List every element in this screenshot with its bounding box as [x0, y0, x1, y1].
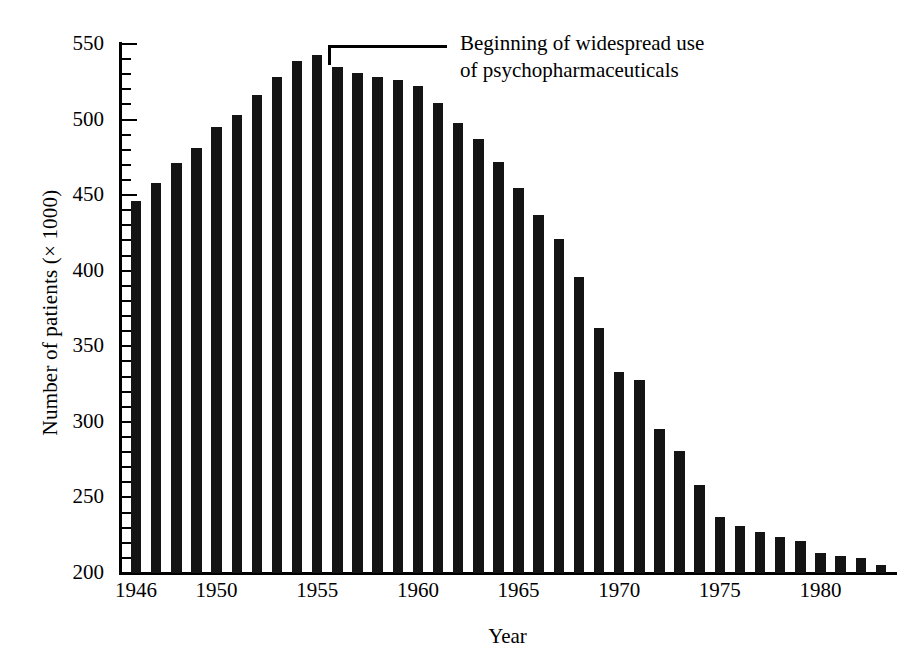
bar	[131, 201, 141, 573]
x-tick-label: 1970	[589, 580, 649, 601]
bar	[493, 162, 503, 573]
annotation-bracket-vertical	[328, 45, 331, 65]
y-tick-minor	[122, 239, 131, 241]
y-axis-line	[119, 42, 122, 575]
bar	[372, 77, 382, 573]
bar	[513, 188, 523, 573]
y-tick-minor	[122, 73, 131, 75]
bar-chart-figure: Number of patients (× 1000) 200250300350…	[0, 0, 909, 666]
bar	[292, 61, 302, 573]
bar	[755, 532, 765, 573]
annotation-label: Beginning of widespread use of psychopha…	[460, 30, 704, 84]
y-tick-minor	[122, 134, 131, 136]
bar	[312, 55, 322, 573]
bar	[151, 183, 161, 573]
y-tick-minor	[122, 527, 131, 529]
y-tick-minor	[122, 376, 131, 378]
y-tick-label: 300	[42, 411, 104, 432]
bar	[171, 163, 181, 573]
x-tick-label: 1980	[791, 580, 851, 601]
y-tick-minor	[122, 542, 131, 544]
bar	[715, 517, 725, 573]
bar	[815, 553, 825, 573]
y-tick-label: 500	[42, 109, 104, 130]
y-tick-minor	[122, 451, 131, 453]
bar	[211, 127, 221, 573]
bar	[272, 77, 282, 573]
y-tick-label: 200	[42, 562, 104, 583]
y-tick-minor	[122, 209, 131, 211]
bar	[393, 80, 403, 573]
y-tick-label: 450	[42, 184, 104, 205]
bar	[654, 429, 664, 573]
bar	[453, 123, 463, 573]
y-tick-minor	[122, 58, 131, 60]
y-tick-minor	[122, 224, 131, 226]
y-tick-minor	[122, 330, 131, 332]
y-tick-minor	[122, 103, 131, 105]
y-tick-minor	[122, 360, 131, 362]
bar	[614, 372, 624, 573]
bar	[634, 380, 644, 573]
y-tick-major	[122, 43, 137, 45]
bar	[735, 526, 745, 573]
y-tick-minor	[122, 512, 131, 514]
x-tick-label: 1946	[106, 580, 166, 601]
bar	[533, 215, 543, 573]
bar	[574, 277, 584, 573]
bar	[191, 148, 201, 573]
y-tick-label: 400	[42, 260, 104, 281]
bar	[554, 239, 564, 573]
bar	[232, 115, 242, 573]
bar	[795, 541, 805, 573]
y-tick-minor	[122, 481, 131, 483]
bar	[835, 556, 845, 573]
y-tick-label: 250	[42, 486, 104, 507]
x-tick-label: 1950	[187, 580, 247, 601]
y-tick-minor	[122, 300, 131, 302]
bar	[775, 537, 785, 573]
bar	[694, 485, 704, 573]
x-tick-label: 1975	[690, 580, 750, 601]
bar	[352, 73, 362, 573]
annotation-bracket-horizontal	[328, 45, 447, 48]
bar	[856, 558, 866, 573]
y-tick-label: 550	[42, 33, 104, 54]
x-tick-label: 1960	[388, 580, 448, 601]
y-tick-label: 350	[42, 335, 104, 356]
y-tick-minor	[122, 557, 131, 559]
bar	[413, 86, 423, 573]
y-tick-major	[122, 119, 137, 121]
y-tick-minor	[122, 285, 131, 287]
y-tick-minor	[122, 315, 131, 317]
bar	[332, 67, 342, 573]
y-tick-minor	[122, 164, 131, 166]
y-tick-minor	[122, 391, 131, 393]
y-tick-minor	[122, 436, 131, 438]
bar	[252, 95, 262, 573]
y-tick-minor	[122, 149, 131, 151]
y-tick-minor	[122, 255, 131, 257]
y-tick-major	[122, 194, 137, 196]
bar	[473, 139, 483, 573]
bar	[674, 451, 684, 573]
x-axis-title: Year	[120, 624, 895, 649]
x-tick-label: 1965	[489, 580, 549, 601]
y-tick-minor	[122, 179, 131, 181]
y-tick-minor	[122, 88, 131, 90]
y-tick-minor	[122, 406, 131, 408]
bar	[433, 103, 443, 573]
bar	[876, 565, 886, 573]
bar	[594, 328, 604, 573]
y-tick-minor	[122, 466, 131, 468]
x-tick-label: 1955	[287, 580, 347, 601]
